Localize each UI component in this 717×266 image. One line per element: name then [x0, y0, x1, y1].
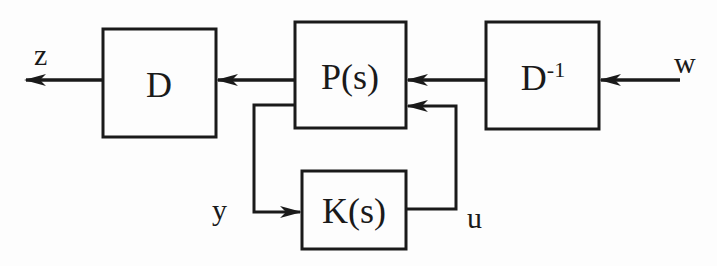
signal-w-label: w [674, 48, 696, 78]
signal-y-label: y [212, 195, 227, 225]
signal-z-label: z [34, 40, 47, 70]
block-d-inverse-base: D [521, 58, 547, 98]
signal-u-label: u [467, 203, 482, 233]
block-d-inverse-label: D-1 [521, 60, 565, 96]
block-d-label: D [146, 67, 172, 103]
edge-k-to-p-u [406, 106, 456, 209]
block-p-label: P(s) [321, 59, 379, 95]
block-k-label: K(s) [322, 193, 386, 229]
block-d-inverse-exponent: -1 [547, 57, 565, 82]
edge-p-to-k-y [254, 105, 300, 212]
block-diagram: D P(s) D-1 K(s) z w y u [0, 0, 717, 266]
